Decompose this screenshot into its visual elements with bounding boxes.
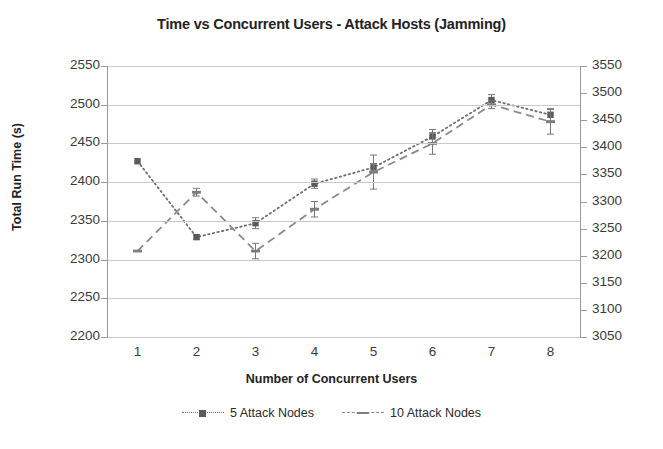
x-axis-tick-label: 8 <box>531 344 571 359</box>
series-line <box>138 100 551 237</box>
x-axis-tick-label: 2 <box>177 344 217 359</box>
x-axis-title: Number of Concurrent Users <box>0 372 663 386</box>
y-axis-right-tick-label: 3400 <box>592 138 654 153</box>
y-axis-left-tick-label: 2500 <box>30 96 100 111</box>
x-axis-tick-label: 5 <box>354 344 394 359</box>
data-point-marker-dash <box>546 120 555 123</box>
gridline <box>108 143 580 144</box>
y-axis-right-tick-label: 3100 <box>592 301 654 316</box>
y-axis-left-tick <box>101 221 108 222</box>
legend-item-10-attack-nodes[interactable]: 10 Attack Nodes <box>342 406 481 420</box>
data-point-marker-dash <box>310 208 319 211</box>
x-axis-tick-label: 6 <box>413 344 453 359</box>
y-axis-title: Total Run Time (s) <box>10 82 24 272</box>
gridline <box>108 66 580 67</box>
legend-key-dashed-dash-icon <box>342 408 384 418</box>
legend-label: 5 Attack Nodes <box>230 406 314 420</box>
gridline <box>108 298 580 299</box>
y-axis-right-tick-label: 3550 <box>592 57 654 72</box>
y-axis-right-tick <box>580 174 587 175</box>
y-axis-right-tick <box>580 337 587 338</box>
gridline <box>108 221 580 222</box>
y-axis-left-tick <box>101 260 108 261</box>
data-point-marker-dash <box>133 250 142 253</box>
y-axis-right-tick <box>580 256 587 257</box>
y-axis-right-tick <box>580 283 587 284</box>
y-axis-left-tick-label: 2400 <box>30 173 100 188</box>
legend-key-dotted-square-icon <box>182 408 224 418</box>
x-axis-tick-label: 1 <box>118 344 158 359</box>
x-axis-tick-label: 4 <box>295 344 335 359</box>
y-axis-left-tick-label: 2450 <box>30 134 100 149</box>
data-point-marker-dash <box>369 171 378 174</box>
y-axis-right-tick <box>580 120 587 121</box>
gridline <box>108 105 580 106</box>
y-axis-left-tick <box>101 298 108 299</box>
data-point-marker-dash <box>192 191 201 194</box>
y-axis-right-tick-label: 3450 <box>592 111 654 126</box>
y-axis-left-tick-label: 2550 <box>30 57 100 72</box>
y-axis-right-tick <box>580 66 587 67</box>
gridline <box>108 337 580 338</box>
y-axis-right-tick <box>580 93 587 94</box>
y-axis-right-tick-label: 3200 <box>592 247 654 262</box>
y-axis-right-tick-label: 3300 <box>592 193 654 208</box>
y-axis-right-tick-label: 3250 <box>592 220 654 235</box>
chart-container: Time vs Concurrent Users - Attack Hosts … <box>0 0 663 449</box>
y-axis-right-tick-label: 3050 <box>592 328 654 343</box>
y-axis-right-tick-label: 3350 <box>592 165 654 180</box>
y-axis-right-tick <box>580 310 587 311</box>
series-line <box>138 105 551 251</box>
y-axis-left-tick <box>101 182 108 183</box>
y-axis-left-tick <box>101 337 108 338</box>
y-axis-left-tick-label: 2350 <box>30 212 100 227</box>
x-axis-tick-label: 7 <box>472 344 512 359</box>
data-point-marker-square <box>193 234 199 240</box>
y-axis-left-tick-label: 2200 <box>30 328 100 343</box>
y-axis-left-tick <box>101 105 108 106</box>
x-axis-tick-label: 3 <box>236 344 276 359</box>
y-axis-right-tick <box>580 147 587 148</box>
legend-label: 10 Attack Nodes <box>390 406 481 420</box>
y-axis-left-tick <box>101 66 108 67</box>
y-axis-left-tick-label: 2300 <box>30 251 100 266</box>
series-layer <box>108 66 580 337</box>
y-axis-right-tick <box>580 202 587 203</box>
y-axis-left-tick <box>101 143 108 144</box>
y-axis-right-tick-label: 3500 <box>592 84 654 99</box>
chart-legend: 5 Attack Nodes 10 Attack Nodes <box>0 406 663 420</box>
legend-item-5-attack-nodes[interactable]: 5 Attack Nodes <box>182 406 314 420</box>
gridline <box>108 260 580 261</box>
y-axis-right-tick-label: 3150 <box>592 274 654 289</box>
plot-area <box>108 66 580 337</box>
y-axis-left-tick-label: 2250 <box>30 289 100 304</box>
gridline <box>108 182 580 183</box>
y-axis-right-tick <box>580 229 587 230</box>
series-5-attack-nodes <box>134 95 554 241</box>
data-point-marker-dash <box>251 250 260 253</box>
data-point-marker-square <box>134 158 140 164</box>
